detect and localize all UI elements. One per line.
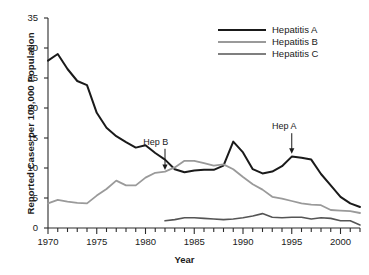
legend-label: Hepatitis B [272, 36, 318, 47]
x-tick-label: 1995 [272, 236, 312, 247]
x-tick-label: 2000 [321, 236, 361, 247]
y-tick-label: 15 [12, 132, 38, 143]
hepatitis-incidence-chart: Reported Cases per 100,000 Population Ye… [0, 0, 369, 275]
y-tick-label: 35 [12, 12, 38, 23]
x-axis-title: Year [0, 254, 369, 265]
annotation-label: Hep B [143, 137, 168, 147]
x-tick-label: 1990 [223, 236, 263, 247]
y-tick-label: 25 [12, 72, 38, 83]
chart-series [48, 54, 360, 225]
series-line-hepatitis-b [48, 161, 360, 213]
annotation-label: Hep A [272, 121, 297, 131]
y-tick-label: 0 [12, 222, 38, 233]
legend-label: Hepatitis A [272, 24, 317, 35]
x-tick-label: 1985 [174, 236, 214, 247]
series-line-hepatitis-c [165, 214, 360, 225]
y-tick-label: 20 [12, 102, 38, 113]
y-tick-label: 10 [12, 162, 38, 173]
x-tick-label: 1970 [28, 236, 68, 247]
legend-label: Hepatitis C [272, 48, 318, 59]
y-tick-label: 30 [12, 42, 38, 53]
x-tick-label: 1980 [126, 236, 166, 247]
y-tick-label: 5 [12, 192, 38, 203]
chart-legend-lines [218, 30, 266, 54]
x-tick-label: 1975 [77, 236, 117, 247]
series-line-hepatitis-a [48, 54, 360, 207]
